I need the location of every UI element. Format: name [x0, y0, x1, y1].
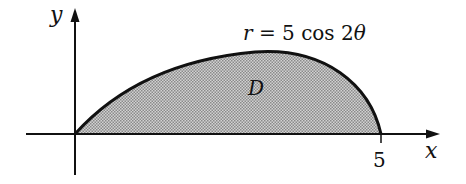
equation-theta: θ	[354, 21, 366, 45]
curve-equation: r = 5 cos 2θ	[243, 21, 366, 45]
region-label-d: D	[248, 76, 264, 100]
diagram-graphics	[0, 0, 466, 184]
polar-region-diagram: y x 5 r = 5 cos 2θ D	[0, 0, 466, 184]
equation-r: r	[243, 21, 253, 45]
equation-rhs: 5 cos 2	[282, 21, 354, 45]
x-tick-label-5: 5	[373, 148, 386, 172]
y-axis-label: y	[50, 2, 62, 27]
x-axis-label: x	[425, 138, 437, 163]
equation-equals: =	[259, 21, 276, 45]
region-d-fill	[75, 52, 381, 134]
y-axis-arrow-icon	[71, 8, 80, 22]
